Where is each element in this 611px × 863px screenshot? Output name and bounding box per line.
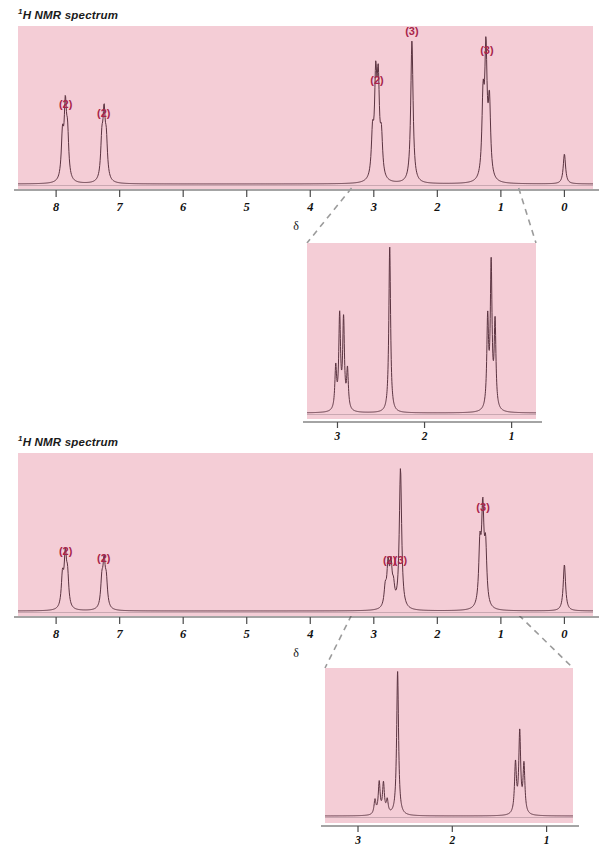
nmr-figure: 1H NMR spectrum 876543210 (2)(2)(2)(3)(3… [0, 0, 611, 863]
axis-tick-label: 3 [355, 834, 361, 846]
spectrum-2-plot-area [18, 453, 593, 616]
axis-tick-label: 2 [449, 834, 455, 846]
axis-tick-label: 1 [544, 834, 550, 846]
peak-integration-label: (3) [476, 501, 489, 513]
axis-tick-label: 7 [117, 627, 123, 642]
spectrum-2-trace [18, 453, 593, 616]
axis-tick-label: 4 [307, 627, 313, 642]
axis-tick-label: 8 [53, 627, 59, 642]
inset-1-trace [307, 243, 536, 419]
axis-tick-label: 3 [371, 627, 377, 642]
axis-tick-label: 1 [498, 627, 504, 642]
inset-2-trace [325, 668, 573, 823]
axis-tick-label: 2 [422, 430, 428, 442]
peak-integration-label: (2) [97, 552, 110, 564]
axis-tick-label: 0 [561, 627, 567, 642]
axis-tick-label: 2 [434, 627, 440, 642]
axis-tick-label: 3 [335, 430, 341, 442]
spectrum-2-delta-label: δ [293, 646, 299, 661]
spectrum-2-title-text: H NMR spectrum [23, 436, 118, 448]
inset-1-plot-area [307, 243, 536, 419]
axis-tick-label: 6 [180, 627, 186, 642]
axis-tick-label: 1 [509, 430, 515, 442]
inset-2-plot-area [325, 668, 573, 823]
spectrum-2-axis [0, 612, 611, 632]
axis-tick-label: 5 [244, 627, 250, 642]
peak-integration-label: (2) [59, 545, 72, 557]
peak-integration-label: (3) [394, 554, 407, 566]
spectrum-2-title: 1H NMR spectrum [18, 434, 118, 448]
